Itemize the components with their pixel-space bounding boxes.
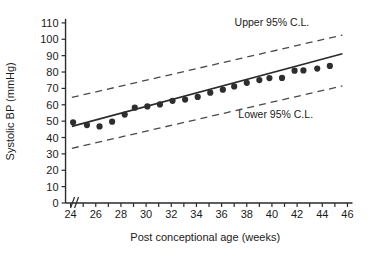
- data-point: [244, 80, 250, 86]
- y-tick-label: 0: [52, 197, 58, 209]
- data-point: [182, 96, 188, 102]
- data-point: [195, 94, 201, 100]
- y-tick-label: 60: [46, 99, 58, 111]
- x-tick-label: 36: [215, 208, 227, 220]
- confidence-limit-annotation: Lower 95% C.L.: [238, 108, 313, 120]
- x-tick-label: 34: [190, 208, 202, 220]
- y-tick-label: 70: [46, 82, 58, 94]
- data-point: [291, 68, 297, 74]
- data-point: [207, 90, 213, 96]
- x-tick-label: 42: [291, 208, 303, 220]
- data-point: [231, 83, 237, 89]
- x-tick-label: 24: [64, 208, 76, 220]
- y-tick-label: 50: [46, 115, 58, 127]
- y-tick-label: 90: [46, 50, 58, 62]
- scatter-plot-svg: 0102030405060708090100110 24262830323436…: [0, 0, 371, 260]
- data-point: [84, 122, 90, 128]
- y-tick-label: 110: [41, 17, 59, 29]
- x-tick-label: 40: [266, 208, 278, 220]
- data-point: [144, 103, 150, 109]
- confidence-limit-annotation: Upper 95% C.L.: [235, 16, 310, 28]
- y-tick-label: 40: [46, 132, 58, 144]
- x-axis-title: Post conceptional age (weeks): [130, 231, 280, 243]
- data-point: [169, 98, 175, 104]
- x-tick-label: 32: [165, 208, 177, 220]
- data-point: [96, 123, 102, 129]
- data-point: [122, 111, 128, 117]
- y-tick-label: 20: [46, 164, 58, 176]
- x-tick-label: 46: [341, 208, 353, 220]
- data-point: [157, 101, 163, 107]
- data-point: [266, 75, 272, 81]
- y-axis-title: Systolic BP (mmHg): [4, 62, 16, 160]
- x-tick-label: 26: [90, 208, 102, 220]
- y-tick-label: 80: [46, 66, 58, 78]
- x-tick-label: 30: [140, 208, 152, 220]
- data-point: [70, 119, 76, 125]
- data-point: [256, 77, 262, 83]
- chart-figure: 0102030405060708090100110 24262830323436…: [0, 0, 371, 260]
- x-tick-label: 38: [241, 208, 253, 220]
- data-point: [279, 75, 285, 81]
- data-point: [109, 119, 115, 125]
- y-tick-label: 30: [46, 148, 58, 160]
- x-tick-label: 44: [316, 208, 328, 220]
- data-point: [300, 67, 306, 73]
- data-point: [314, 65, 320, 71]
- data-point: [220, 87, 226, 93]
- data-point: [327, 63, 333, 69]
- x-tick-label: 28: [115, 208, 127, 220]
- y-tick-label: 100: [40, 33, 58, 45]
- data-point: [132, 105, 138, 111]
- y-tick-label: 10: [46, 181, 58, 193]
